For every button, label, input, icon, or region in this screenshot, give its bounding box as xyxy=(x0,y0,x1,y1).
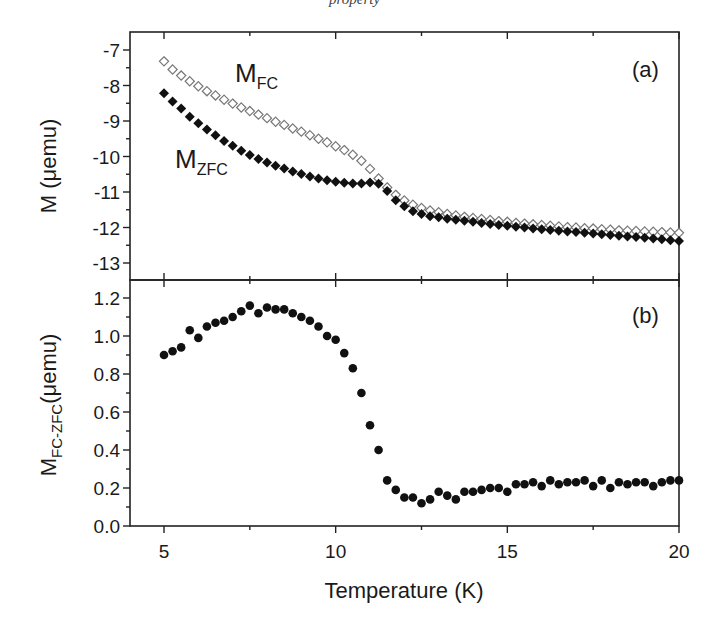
data-point xyxy=(666,476,675,485)
data-point xyxy=(176,104,186,114)
data-point xyxy=(185,77,194,86)
data-point xyxy=(220,317,229,326)
y-tick-label-b: 0.4 xyxy=(94,440,121,461)
data-point xyxy=(486,484,495,493)
data-point xyxy=(236,146,246,156)
data-point xyxy=(494,484,503,493)
y-tick-label-a: -7 xyxy=(103,40,120,61)
data-point xyxy=(262,158,272,168)
data-point xyxy=(168,347,177,356)
data-point xyxy=(391,486,400,495)
data-point xyxy=(657,234,667,244)
data-point xyxy=(349,364,358,373)
data-point xyxy=(366,421,375,430)
series-m-zfc xyxy=(159,88,684,246)
data-point xyxy=(331,142,340,151)
data-point xyxy=(640,233,650,243)
data-point xyxy=(202,87,211,96)
data-point xyxy=(340,349,349,358)
panel-label-b: (b) xyxy=(632,303,659,328)
y-axis-title-a: M (μemu) xyxy=(36,119,61,214)
data-point xyxy=(648,234,658,244)
x-tick-label: 20 xyxy=(668,541,689,562)
data-point xyxy=(503,488,512,497)
data-point xyxy=(160,351,169,360)
data-point xyxy=(219,95,228,104)
data-point xyxy=(280,305,289,314)
y-axis-title-b: MFC-ZFC(μemu) xyxy=(36,334,65,477)
data-point xyxy=(305,131,314,140)
y-tick-label-b: 1.0 xyxy=(94,326,120,347)
data-point xyxy=(253,154,263,164)
data-point xyxy=(339,178,349,188)
data-point xyxy=(469,488,478,497)
data-point xyxy=(675,476,684,485)
data-point xyxy=(271,161,281,171)
data-point xyxy=(563,478,572,487)
data-point xyxy=(211,130,221,140)
data-point xyxy=(580,476,589,485)
data-point xyxy=(348,178,358,188)
data-point xyxy=(168,96,178,106)
y-tick-label-a: -8 xyxy=(103,76,120,97)
data-point xyxy=(409,493,418,502)
data-point xyxy=(245,106,254,115)
data-point xyxy=(254,309,263,318)
data-point xyxy=(177,71,186,80)
data-point xyxy=(237,307,246,316)
data-point xyxy=(322,175,332,185)
y-tick-label-a: -9 xyxy=(103,111,120,132)
data-point xyxy=(194,334,203,343)
data-point xyxy=(597,476,606,485)
data-point xyxy=(219,136,229,146)
data-point xyxy=(572,478,581,487)
y-tick-label-a: -12 xyxy=(93,218,120,239)
data-point xyxy=(348,150,357,159)
axis-ticks xyxy=(123,32,679,533)
label-m-zfc: MZFC xyxy=(175,144,228,178)
data-point xyxy=(417,499,426,508)
data-point xyxy=(331,336,340,345)
x-tick-label: 5 xyxy=(159,541,170,562)
data-point xyxy=(357,389,366,398)
panel-b-frame xyxy=(130,280,679,526)
data-point xyxy=(228,313,237,322)
data-point xyxy=(193,118,203,128)
figure: 5101520-7-8-9-10-11-12-130.00.20.40.60.8… xyxy=(0,0,709,632)
data-point xyxy=(400,493,409,502)
data-point xyxy=(306,317,315,326)
data-point xyxy=(202,125,212,135)
label-m-fc: MFC xyxy=(235,58,278,92)
y-tick-label-b: 0.6 xyxy=(94,402,120,423)
data-point xyxy=(297,313,306,322)
data-point xyxy=(674,236,684,246)
data-point xyxy=(357,156,366,165)
data-point xyxy=(323,332,332,341)
data-point xyxy=(245,150,255,160)
data-point xyxy=(512,480,521,489)
data-point xyxy=(623,231,633,241)
data-point xyxy=(640,478,649,487)
data-point xyxy=(228,141,238,151)
data-point xyxy=(185,326,194,335)
data-point xyxy=(288,309,297,318)
data-point xyxy=(365,177,375,187)
data-point xyxy=(288,166,298,176)
data-point xyxy=(211,318,220,327)
y-tick-label-b: 1.2 xyxy=(94,288,120,309)
data-point xyxy=(177,343,186,352)
data-point xyxy=(623,480,632,489)
x-tick-label: 15 xyxy=(497,541,518,562)
data-point xyxy=(399,201,409,211)
data-point xyxy=(425,211,435,221)
data-point xyxy=(168,65,177,74)
panel-label-a: (a) xyxy=(632,57,659,82)
y-tick-label-a: -10 xyxy=(93,147,120,168)
data-point xyxy=(263,303,272,312)
data-point xyxy=(159,88,169,98)
y-tick-label-a: -13 xyxy=(93,253,120,274)
y-tick-label-b: 0.0 xyxy=(94,516,120,537)
data-point xyxy=(452,495,461,504)
data-point xyxy=(631,232,641,242)
data-point xyxy=(632,478,641,487)
